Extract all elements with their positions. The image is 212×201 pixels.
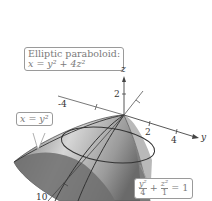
x-tick-10: 10 (36, 192, 47, 201)
surface-eq-lhs: x (28, 58, 33, 69)
trace-xy-callout: x = y² (16, 112, 53, 126)
trace-xy-rhs: y² (39, 113, 48, 124)
paraboloid-graphic (0, 0, 212, 201)
elliptic-paraboloid-figure: Elliptic paraboloid: x = y² + 4z² x = y²… (0, 0, 212, 201)
surface-equation-callout: Elliptic paraboloid: x = y² + 4z² (24, 47, 124, 71)
y-tick-2: 2 (145, 127, 151, 137)
trace-yz-rhs: = 1 (171, 182, 188, 193)
plus-sign: + (150, 182, 158, 193)
trace-yz-callout: y²4 + z²1 = 1 (134, 178, 193, 199)
y-tick-4: 4 (171, 135, 177, 145)
surface-eq-rhs: y² + 4z² (47, 58, 85, 69)
y-axis-label: y (201, 132, 206, 142)
term1-den: 4 (139, 189, 147, 197)
z-axis-label: z (121, 64, 126, 74)
z-tick-2: 2 (114, 89, 120, 99)
y-tick-neg4: -4 (58, 99, 67, 109)
trace-xy-lhs: x (20, 113, 25, 124)
term2-den: 1 (161, 189, 168, 197)
